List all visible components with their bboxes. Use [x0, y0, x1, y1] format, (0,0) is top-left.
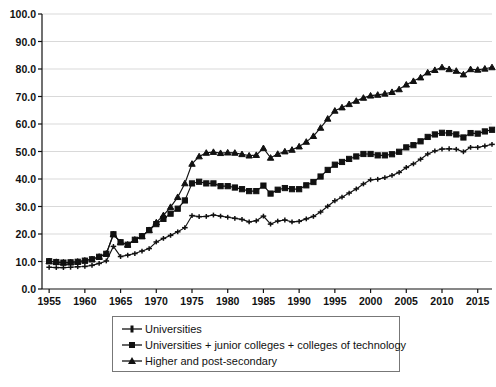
data-point-triangle — [396, 86, 402, 92]
data-point-square — [318, 174, 323, 179]
data-point-square — [211, 181, 216, 186]
data-point-square — [332, 162, 337, 167]
legend-item-label: Universities — [145, 323, 202, 335]
data-point-square — [282, 185, 287, 190]
legend-item-1: Universities + junior colleges + college… — [119, 337, 399, 353]
data-point-square — [354, 154, 359, 159]
data-point-triangle — [296, 143, 302, 149]
data-point-square — [304, 183, 309, 188]
data-point-square — [461, 135, 466, 140]
x-axis-tick-label: 2000 — [359, 295, 383, 307]
data-point-square — [232, 185, 237, 190]
data-point-square — [218, 184, 223, 189]
data-point-square — [389, 152, 394, 157]
x-axis-tick-label: 1970 — [145, 295, 169, 307]
triangle-marker — [119, 354, 145, 368]
chart-legend: UniversitiesUniversities + junior colleg… — [112, 316, 400, 372]
data-point-triangle — [182, 180, 188, 186]
data-point-triangle — [196, 153, 202, 159]
y-axis-tick-label: 40.0 — [16, 173, 37, 185]
square-marker — [119, 338, 145, 352]
data-point-square — [197, 179, 202, 184]
legend-item-label: Universities + junior colleges + college… — [145, 339, 406, 351]
x-axis-tick-label: 1975 — [180, 295, 204, 307]
data-point-square — [168, 211, 173, 216]
data-point-square — [261, 183, 266, 188]
x-axis-tick-label: 1995 — [323, 295, 347, 307]
data-point-triangle — [417, 74, 423, 80]
y-axis-tick-label: 0.0 — [21, 283, 36, 295]
data-point-square — [397, 149, 402, 154]
data-point-triangle — [339, 104, 345, 110]
data-point-square — [411, 143, 416, 148]
data-point-square — [275, 187, 280, 192]
data-point-square — [189, 181, 194, 186]
data-point-triangle — [346, 101, 352, 107]
legend-item-label: Higher and post-secondary — [145, 355, 277, 367]
data-point-square — [425, 134, 430, 139]
legend-item-2: Higher and post-secondary — [119, 353, 399, 369]
data-point-square — [432, 132, 437, 137]
data-point-square — [225, 184, 230, 189]
chart-figure: 0.010.020.030.040.050.060.070.080.090.01… — [0, 0, 496, 387]
data-point-square — [482, 129, 487, 134]
plus-marker — [119, 322, 145, 336]
data-point-square — [382, 153, 387, 158]
data-point-triangle — [332, 108, 338, 114]
x-axis-tick-label: 1955 — [37, 295, 61, 307]
y-axis-tick-label: 20.0 — [16, 228, 37, 240]
data-point-square — [368, 151, 373, 156]
y-axis-tick-label: 10.0 — [16, 256, 37, 268]
data-point-square — [489, 127, 494, 132]
x-axis-tick-label: 1985 — [252, 295, 276, 307]
data-point-triangle — [439, 64, 445, 70]
x-axis-tick-label: 1980 — [216, 295, 240, 307]
data-point-square — [475, 131, 480, 136]
data-point-square — [204, 181, 209, 186]
data-point-square — [468, 130, 473, 135]
data-point-square — [454, 132, 459, 137]
data-point-square — [325, 167, 330, 172]
y-axis-tick-label: 100.0 — [10, 8, 36, 20]
y-axis-tick-label: 90.0 — [16, 36, 37, 48]
data-point-square — [289, 187, 294, 192]
data-point-triangle — [403, 81, 409, 87]
x-axis-tick-label: 1965 — [109, 295, 133, 307]
data-point-square — [347, 156, 352, 161]
y-axis-tick-label: 30.0 — [16, 201, 37, 213]
data-point-square — [254, 189, 259, 194]
data-point-triangle — [260, 145, 266, 151]
data-point-triangle — [175, 194, 181, 200]
x-axis-tick-label: 2010 — [430, 295, 454, 307]
data-point-square — [447, 130, 452, 135]
y-axis-tick-label: 80.0 — [16, 63, 37, 75]
x-axis-tick-label: 2005 — [395, 295, 419, 307]
data-point-square — [404, 145, 409, 150]
series-line-plus-marker — [49, 144, 492, 267]
data-point-square — [439, 130, 444, 135]
data-point-square — [418, 139, 423, 144]
y-axis-tick-label: 70.0 — [16, 91, 37, 103]
legend-item-0: Universities — [119, 321, 399, 337]
data-point-triangle — [489, 64, 495, 70]
data-point-square — [175, 206, 180, 211]
data-point-triangle — [410, 78, 416, 84]
data-point-square — [361, 151, 366, 156]
data-point-square — [268, 191, 273, 196]
data-point-square — [297, 187, 302, 192]
data-point-square — [375, 153, 380, 158]
x-axis-tick-label: 2015 — [466, 295, 490, 307]
data-point-square — [239, 187, 244, 192]
y-axis-tick-label: 50.0 — [16, 146, 37, 158]
x-axis-tick-label: 1990 — [287, 295, 311, 307]
data-point-square — [247, 189, 252, 194]
data-point-triangle — [460, 71, 466, 77]
y-axis-tick-label: 60.0 — [16, 118, 37, 130]
x-axis-tick-label: 1960 — [73, 295, 97, 307]
data-point-square — [311, 179, 316, 184]
data-point-square — [182, 198, 187, 203]
data-point-triangle — [289, 147, 295, 153]
data-point-square — [339, 159, 344, 164]
